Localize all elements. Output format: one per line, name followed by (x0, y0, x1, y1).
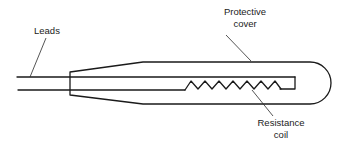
resistance-coil-label-line2: coil (274, 129, 288, 140)
resistance-coil-leader-line (252, 90, 273, 116)
leads-label: Leads (34, 25, 60, 36)
protective-cover (70, 62, 331, 104)
protective-cover-label-line1: Protective (224, 6, 266, 17)
rtd-diagram: Leads Protective cover Resistance coil (0, 0, 342, 151)
protective-cover-label-line2: cover (233, 18, 256, 29)
resistance-coil-label-line1: Resistance (258, 117, 305, 128)
leads-leader-line (30, 38, 46, 77)
protective-cover-leader-line (226, 35, 251, 61)
resistance-coil (185, 81, 281, 90)
inner-element-end (280, 77, 295, 89)
